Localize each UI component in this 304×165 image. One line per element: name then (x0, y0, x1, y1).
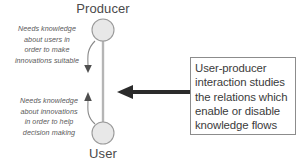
annotation-producer-line-2: about users in (4, 35, 90, 46)
callout-box: User-producer interaction studies the re… (190, 57, 296, 135)
callout-line-5: knowledge flows (195, 118, 295, 132)
annotation-user-line-2: about innovations (4, 107, 94, 118)
producer-node-label: Producer (43, 2, 163, 16)
annotation-user-line-1: Needs knowledge (4, 96, 94, 107)
annotation-user-line-3: in order to help (4, 117, 94, 128)
annotation-producer-needs: Needs knowledge about users in order to … (4, 24, 90, 67)
annotation-producer-line-3: order to make (4, 45, 90, 56)
diagram-canvas: Producer User Needs knowledge about user… (0, 0, 304, 165)
callout-line-3: the relations which (195, 90, 295, 104)
user-node-label: User (43, 147, 163, 161)
annotation-producer-line-1: Needs knowledge (4, 24, 90, 35)
callout-line-4: enable or disable (195, 104, 295, 118)
callout-pointer-arrow (117, 85, 190, 99)
annotation-user-needs: Needs knowledge about innovations in ord… (4, 96, 94, 139)
callout-line-1: User-producer (195, 61, 295, 75)
annotation-user-line-4: decision making (4, 128, 94, 139)
producer-node-circle (92, 19, 114, 41)
callout-text: User-producer interaction studies the re… (195, 61, 295, 132)
annotation-producer-line-4: innovations suitable (4, 56, 90, 67)
user-node-circle (92, 122, 114, 144)
callout-line-2: interaction studies (195, 75, 295, 89)
